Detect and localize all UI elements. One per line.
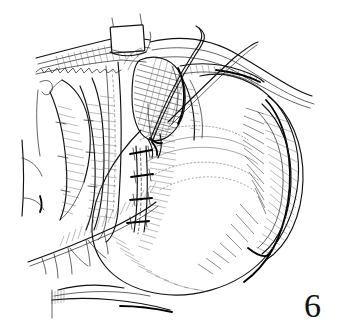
surgical-illustration	[0, 0, 337, 331]
canvas-background	[0, 0, 337, 331]
figure-container: 6	[0, 0, 337, 331]
figure-number: 6	[304, 289, 321, 323]
